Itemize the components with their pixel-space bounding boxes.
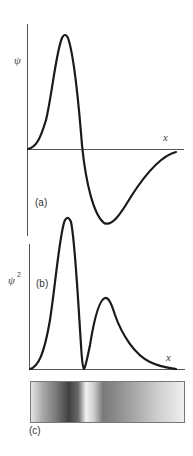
psi-squared-superscript: 2 bbox=[17, 271, 21, 278]
psi-label: ψ bbox=[14, 54, 21, 66]
panel-c: (c) bbox=[29, 382, 185, 437]
psi-squared-label: ψ bbox=[8, 274, 15, 286]
wavefunction-figure: ψ x (a) ψ 2 (b) x (c) bbox=[0, 0, 193, 456]
panel-b-label: (b) bbox=[36, 278, 48, 289]
panel-a-label: (a) bbox=[35, 197, 47, 208]
panel-c-label: (c) bbox=[29, 425, 41, 436]
panel-a-x-label: x bbox=[162, 131, 168, 143]
panel-b-x-label: x bbox=[165, 351, 171, 363]
density-band bbox=[31, 382, 185, 423]
psi-curve bbox=[28, 35, 176, 224]
psi-squared-curve bbox=[30, 218, 176, 369]
panel-b: ψ 2 (b) x bbox=[8, 218, 185, 370]
panel-a: ψ x (a) bbox=[14, 24, 184, 236]
